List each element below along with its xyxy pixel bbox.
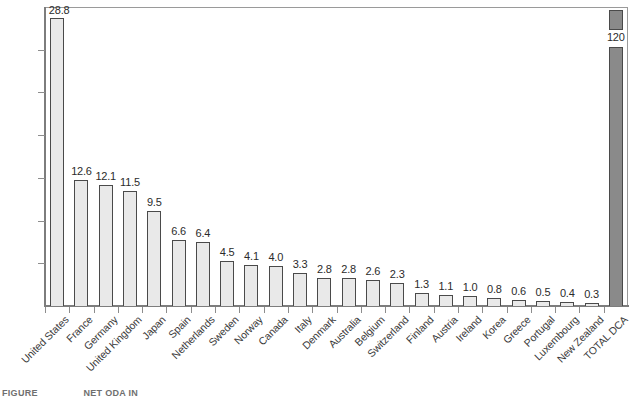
bar-total-dca — [609, 47, 623, 306]
bar-value-label: 28.8 — [39, 5, 79, 16]
bar-portugal — [536, 301, 550, 306]
bar-segment-top — [609, 10, 623, 30]
bar-value-label: 11.5 — [110, 177, 150, 188]
bar-value-label: 6.4 — [183, 228, 223, 239]
caption-right: NET ODA IN — [83, 388, 138, 398]
bar-belgium — [366, 280, 380, 306]
bar-chart-figure: 28.812.612.111.59.56.66.44.54.14.03.32.8… — [0, 0, 639, 398]
figure-caption: FIGURE NET ODA IN — [2, 388, 138, 398]
bar-france — [74, 180, 88, 306]
bar-sweden — [220, 261, 234, 306]
bar-united-states — [50, 18, 64, 306]
bar-ireland — [463, 296, 477, 306]
bar-united-kingdom — [123, 191, 137, 306]
bar-finland — [415, 293, 429, 306]
bar-value-label: 0.3 — [572, 289, 612, 300]
bar-spain — [172, 240, 186, 306]
bar-denmark — [317, 278, 331, 306]
bar-canada — [269, 266, 283, 306]
bar-value-label: 9.5 — [134, 197, 174, 208]
bar-greece — [512, 300, 526, 306]
bar-value-label: 120 — [596, 32, 636, 43]
bar-korea — [487, 298, 501, 306]
bar-norway — [244, 265, 258, 306]
bar-germany — [99, 185, 113, 306]
caption-left: FIGURE — [2, 388, 38, 398]
bar-italy — [293, 273, 307, 306]
bar-luxembourg — [560, 302, 574, 306]
bar-austria — [439, 295, 453, 306]
bar-new-zealand — [585, 303, 599, 306]
bar-australia — [342, 278, 356, 306]
